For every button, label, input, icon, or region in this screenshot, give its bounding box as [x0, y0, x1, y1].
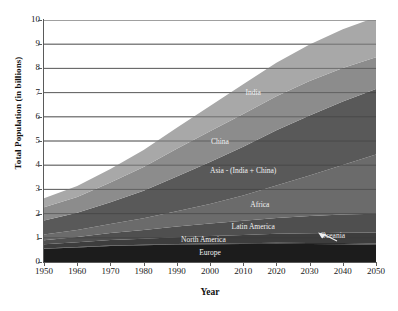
stacked-area-chart: Total Population (in billions) Year 0123… [0, 0, 398, 311]
band-label-europe: Europe [199, 248, 221, 257]
x-axis-line [43, 262, 377, 263]
band-label-north-america: North America [181, 235, 226, 244]
band-label-latin-america: Latin America [232, 222, 275, 231]
band-label-asia-india-china: Asia - (India + China) [210, 166, 276, 175]
band-label-china: China [211, 137, 229, 146]
oceania-arrow-icon [316, 231, 338, 243]
x-tick-label: 2050 [356, 266, 396, 276]
band-label-india: India [245, 88, 260, 97]
band-label-africa: Africa [250, 200, 269, 209]
y-axis-line [43, 19, 44, 263]
